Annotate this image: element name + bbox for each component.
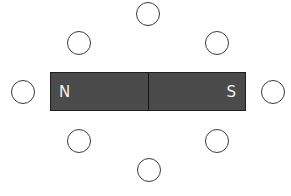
compass-circle-lower-left [67,129,91,153]
compass-circle-right [261,80,285,104]
south-pole: S [149,73,246,110]
magnet-diagram: N S [0,0,291,196]
compass-circle-bottom [137,158,161,182]
compass-circle-upper-left [67,31,91,55]
north-pole-label: N [59,84,70,99]
compass-circle-top [136,2,160,26]
compass-circle-lower-right [205,129,229,153]
compass-circle-upper-right [205,31,229,55]
bar-magnet: N S [50,72,246,111]
south-pole-label: S [226,84,236,99]
compass-circle-left [11,80,35,104]
north-pole: N [51,73,149,110]
